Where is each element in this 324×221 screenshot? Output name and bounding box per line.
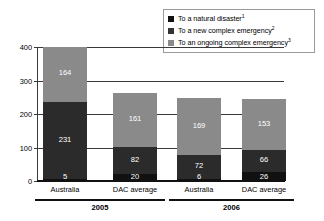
x-label-2006-australia: Australia	[167, 185, 231, 194]
group-bracket-2005	[35, 199, 165, 201]
x-label-2006-dac-average: DAC average	[232, 185, 296, 194]
bar-segment-1: 231	[43, 102, 87, 179]
legend-swatch-new-complex-emergency	[168, 28, 174, 34]
group-bracket-2006	[169, 199, 294, 201]
x-label-2005-australia: Australia	[33, 185, 97, 194]
bar-segment-value: 82	[113, 155, 157, 164]
bar-2005-australia: 1642315	[43, 47, 87, 181]
legend-swatch-natural-disaster	[168, 16, 174, 22]
stacked-bar-chart: To a natural disaster1 To a new complex …	[0, 0, 324, 221]
bar-segment-2: 169	[177, 98, 221, 155]
legend-item-natural-disaster: To a natural disaster1	[168, 13, 310, 25]
bar-segment-value: 161	[113, 114, 157, 123]
legend-swatch-ongoing-complex-emergency	[168, 40, 174, 46]
y-tick-label-400: 400	[2, 43, 32, 52]
bar-segment-value: 164	[43, 68, 87, 77]
plot-area: 164231516182201697261536626	[37, 47, 284, 181]
bar-2005-dac-average: 1618220	[113, 93, 157, 181]
legend-sup-2: 3	[288, 37, 291, 43]
y-tick-label-0: 0	[2, 177, 32, 186]
y-tick-label-300: 300	[2, 77, 32, 86]
legend-label-natural-disaster: To a natural disaster1	[178, 13, 244, 25]
bar-segment-value: 231	[43, 135, 87, 144]
bar-segment-1: 66	[242, 150, 286, 172]
bar-segment-value: 72	[177, 161, 221, 170]
group-label-2005: 2005	[35, 203, 165, 212]
x-axis-line	[37, 180, 285, 182]
y-tick-label-200: 200	[2, 110, 32, 119]
bar-2006-australia: 169726	[177, 98, 221, 181]
bar-segment-value: 66	[242, 155, 286, 164]
legend-text-2: To an ongoing complex emergency	[178, 38, 288, 47]
group-label-2006: 2006	[169, 203, 294, 212]
y-tick-label-100: 100	[2, 144, 32, 153]
bar-segment-value: 153	[242, 119, 286, 128]
legend-text-0: To a natural disaster	[178, 14, 242, 23]
bar-segment-2: 164	[43, 47, 87, 102]
legend-text-1: To a new complex emergency	[178, 26, 272, 35]
x-label-2005-dac-average: DAC average	[103, 185, 167, 194]
bar-segment-2: 161	[113, 93, 157, 147]
bar-segment-1: 82	[113, 147, 157, 174]
legend-sup-1: 2	[272, 25, 275, 31]
legend-label-new-complex-emergency: To a new complex emergency2	[178, 25, 275, 37]
bar-segment-2: 153	[242, 99, 286, 150]
bar-2006-dac-average: 1536626	[242, 99, 286, 181]
legend-sup-0: 1	[242, 13, 245, 19]
bar-segment-value: 169	[177, 121, 221, 130]
legend-item-new-complex-emergency: To a new complex emergency2	[168, 25, 310, 37]
